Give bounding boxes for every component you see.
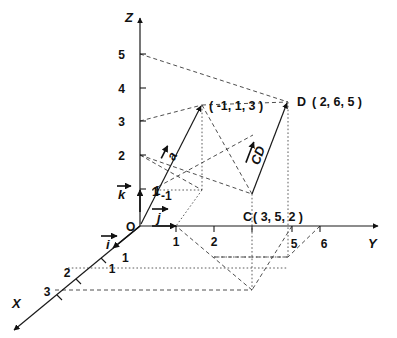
k-vector-label-group: k — [117, 186, 131, 202]
i-vector-label-group: i — [101, 236, 117, 252]
origin-label: O — [126, 220, 135, 234]
construction-z5-to-d — [140, 54, 288, 102]
y-axis-ticks — [176, 226, 320, 232]
k-vector-label: k — [118, 187, 126, 202]
j-vector-label: j — [155, 210, 161, 225]
z-tick-label-3: 3 — [118, 115, 125, 129]
x-tick-label-1: 1 — [109, 262, 116, 276]
construction-parallel-helper — [152, 135, 253, 190]
y-tick-label-2: 2 — [211, 235, 218, 249]
point-d-coords: ( 2, 6, 5 ) — [312, 95, 362, 109]
point-a-coords: ( -1, 1, 3 ) — [209, 99, 263, 113]
x-tick-label-3: 3 — [44, 285, 51, 299]
y-tick-label-6: 6 — [321, 237, 328, 251]
y-axis-label: Y — [368, 236, 378, 251]
point-c-coords: ( 3, 5, 2 ) — [253, 210, 303, 224]
z-axis-label: Z — [124, 10, 134, 25]
x-tick-label-2: 2 — [64, 266, 71, 280]
coordinate-diagram: Z Y X O 5 4 3 2 1 -1 1 2 5 6 1 2 3 k j — [0, 0, 397, 338]
construction-a-to-c — [202, 105, 252, 194]
unit-one-on-z: 1 — [152, 185, 159, 199]
vector-cd-label-group: CD — [246, 142, 269, 168]
construction-xy-plane-c — [176, 226, 292, 290]
y-tick-label-1: 1 — [173, 235, 180, 249]
z-tick-label-4: 4 — [118, 82, 125, 96]
construction-xy-plane-d — [214, 226, 320, 257]
vector-cd-label: CD — [247, 143, 268, 166]
y-tick-label-5: 5 — [291, 237, 298, 251]
construction-z3-to-a — [140, 105, 202, 121]
j-vector-label-group: j — [152, 209, 168, 225]
z-axis-ticks — [140, 54, 146, 189]
construction-a-base-to-y — [176, 190, 202, 226]
i-vector-label: i — [106, 237, 110, 252]
point-c-label: C — [243, 210, 252, 224]
point-d-label: D — [297, 95, 306, 109]
vector-a-arrow — [141, 106, 201, 224]
x-axis-label: X — [11, 296, 22, 311]
negative-one-label: -1 — [161, 189, 172, 203]
unit-one-on-x: 1 — [122, 251, 129, 265]
z-tick-label-2: 2 — [118, 149, 125, 163]
z-tick-label-5: 5 — [118, 48, 125, 62]
diagram-canvas: Z Y X O 5 4 3 2 1 -1 1 2 5 6 1 2 3 k j — [0, 0, 397, 338]
